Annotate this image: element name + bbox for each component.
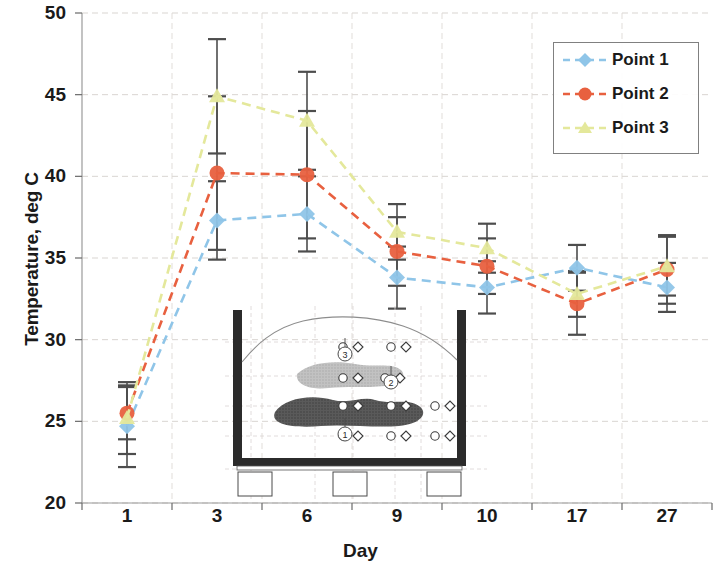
legend-label: Point 1 (612, 50, 669, 70)
legend-marker-icon (562, 85, 608, 103)
vessel-inset-diagram: 123 (225, 306, 487, 502)
temperature-line-chart: Temperature, deg C Day 20253035404550 13… (0, 0, 721, 574)
inset-sensor-label-1: 1 (342, 430, 347, 440)
data-point-marker (210, 166, 225, 181)
data-point-marker (300, 167, 315, 182)
inset-sensor-label-3: 3 (342, 350, 347, 360)
vessel-inset-svg: 123 (225, 306, 487, 502)
data-point-marker (389, 270, 405, 286)
chart-legend: Point 1Point 2Point 3 (553, 42, 699, 154)
data-point-marker (299, 206, 315, 222)
legend-item-3[interactable]: Point 3 (554, 111, 698, 145)
inset-sensor-label-2: 2 (388, 378, 393, 388)
data-point-marker (390, 244, 405, 259)
data-point-marker (479, 240, 495, 254)
legend-label: Point 2 (612, 84, 669, 104)
legend-label: Point 3 (612, 118, 669, 138)
data-point-marker (209, 212, 225, 228)
data-point-marker (480, 259, 495, 274)
legend-marker-icon (562, 51, 608, 69)
legend-item-2[interactable]: Point 2 (554, 77, 698, 111)
legend-marker-icon (562, 119, 608, 137)
data-point-marker (659, 279, 675, 295)
legend-item-1[interactable]: Point 1 (554, 43, 698, 77)
